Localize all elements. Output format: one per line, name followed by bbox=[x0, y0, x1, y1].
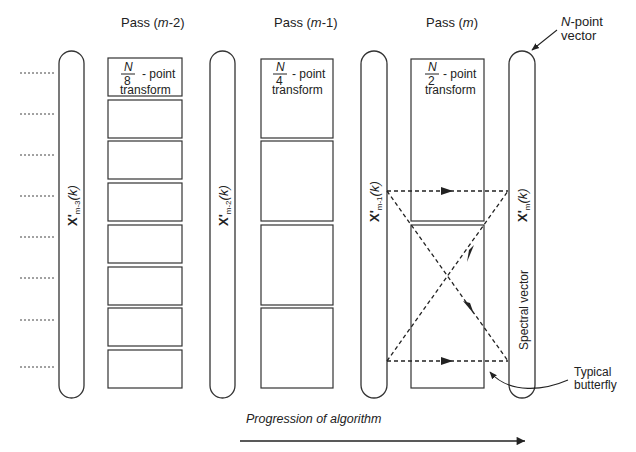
svg-text:N: N bbox=[124, 60, 133, 74]
transform-box bbox=[261, 225, 333, 305]
typical-butterfly-label-line2: butterfly bbox=[574, 378, 617, 392]
vector-pill-m-1 bbox=[361, 51, 387, 398]
svg-text:- point: - point bbox=[292, 67, 326, 81]
vector-label-m-1: X'm-1(k) bbox=[367, 181, 384, 222]
svg-text:transform: transform bbox=[120, 83, 171, 97]
butterfly-arrows bbox=[441, 187, 474, 365]
svg-text:- point: - point bbox=[443, 67, 477, 81]
pass-heading-m: Pass (m) bbox=[426, 15, 478, 30]
vector-label-m-2: X'm-2(k) bbox=[216, 185, 233, 226]
transform-box bbox=[108, 100, 182, 138]
input-lines bbox=[20, 73, 55, 367]
arrow-head-icon bbox=[463, 301, 474, 314]
pass-m-boxes bbox=[411, 59, 484, 388]
transform-box bbox=[261, 141, 333, 221]
svg-text:- point: - point bbox=[142, 67, 176, 81]
transform-label-n2: N 2 - point transform bbox=[425, 60, 477, 97]
vector-label-m-3: X'm-3(k) bbox=[65, 185, 82, 226]
svg-text:transform: transform bbox=[272, 83, 323, 97]
svg-text:N: N bbox=[276, 60, 285, 74]
arrow-head-icon bbox=[441, 357, 453, 365]
spectral-vector-label: Spectral vector bbox=[517, 270, 531, 350]
n-point-vector-label: N-point bbox=[561, 14, 603, 29]
transform-box bbox=[108, 183, 182, 221]
transform-box bbox=[261, 308, 333, 388]
transform-box bbox=[108, 225, 182, 263]
transform-box bbox=[108, 350, 182, 388]
svg-text:transform: transform bbox=[425, 83, 476, 97]
pass-m-2-boxes bbox=[108, 58, 182, 388]
transform-box bbox=[108, 308, 182, 346]
pointer-arrow-icon bbox=[490, 372, 568, 388]
transform-label-n4: N 4 - point transform bbox=[272, 60, 326, 97]
progression-label: Progression of algorithm bbox=[246, 412, 381, 426]
fft-pass-diagram: Pass (m-2) Pass (m-1) Pass (m) N bbox=[0, 0, 636, 452]
pointer-arrow-icon bbox=[532, 30, 557, 50]
arrow-head-icon bbox=[441, 187, 453, 195]
transform-box bbox=[108, 141, 182, 179]
butterfly bbox=[387, 191, 508, 361]
pass-heading-m-2: Pass (m-2) bbox=[121, 15, 185, 30]
arrow-head-icon bbox=[467, 245, 474, 262]
pass-m-1-boxes bbox=[261, 59, 333, 388]
transform-box bbox=[108, 267, 182, 305]
pass-heading-m-1: Pass (m-1) bbox=[274, 15, 338, 30]
transform-box bbox=[411, 225, 484, 388]
transform-label-n8: N 8 - point transform bbox=[120, 60, 176, 97]
typical-butterfly-label: Typical bbox=[574, 365, 611, 379]
n-point-vector-label-line2: vector bbox=[561, 28, 597, 43]
svg-text:N: N bbox=[428, 60, 437, 74]
vector-label-m: X'm(k) bbox=[515, 188, 532, 222]
